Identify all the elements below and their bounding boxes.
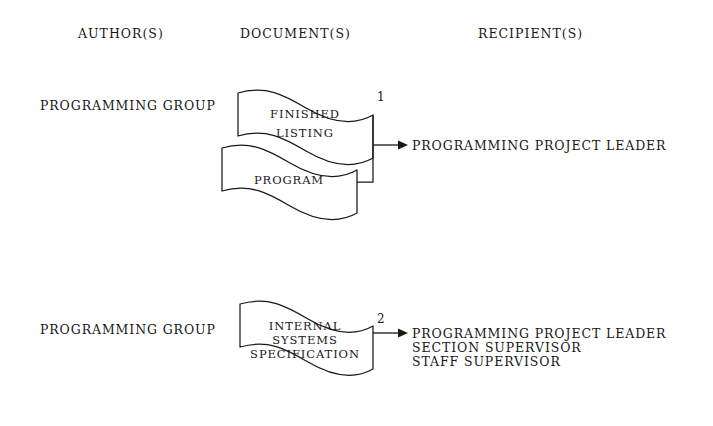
- arrow-head-flow-1: [398, 141, 408, 150]
- arrow-head-flow-2: [398, 329, 408, 338]
- document-text-finished-listing-line-1: FINISHED: [270, 107, 340, 121]
- column-header-authors: AUTHOR(S): [78, 26, 164, 41]
- diagram-vector-layer: [0, 0, 713, 426]
- document-text-internal-systems-specification-line-1: INTERNAL: [269, 319, 342, 333]
- document-text-internal-systems-specification-line-3: SPECIFICATION: [250, 347, 360, 361]
- flow-number-2: 2: [377, 312, 385, 326]
- recipient-label-flow-2-line-1: PROGRAMMING PROJECT LEADER: [412, 326, 666, 341]
- recipient-label-flow-1-line-1: PROGRAMMING PROJECT LEADER: [412, 138, 666, 153]
- column-header-documents: DOCUMENT(S): [240, 26, 351, 41]
- document-text-internal-systems-specification-line-2: SYSTEMS: [272, 333, 337, 347]
- flow-number-1: 1: [377, 90, 385, 104]
- document-text-finished-listing-line-2: LISTING: [276, 126, 334, 140]
- recipient-label-flow-2-line-2: SECTION SUPERVISOR: [412, 340, 582, 355]
- recipient-label-flow-2-line-3: STAFF SUPERVISOR: [412, 354, 561, 369]
- connector-bracket-flow-1: [357, 115, 373, 182]
- document-flow-diagram: AUTHOR(S) DOCUMENT(S) RECIPIENT(S) PROGR…: [0, 0, 713, 426]
- author-label-flow-2: PROGRAMMING GROUP: [40, 322, 216, 337]
- document-text-program-line-1: PROGRAM: [254, 173, 324, 187]
- author-label-flow-1: PROGRAMMING GROUP: [40, 98, 216, 113]
- column-header-recipients: RECIPIENT(S): [478, 26, 583, 41]
